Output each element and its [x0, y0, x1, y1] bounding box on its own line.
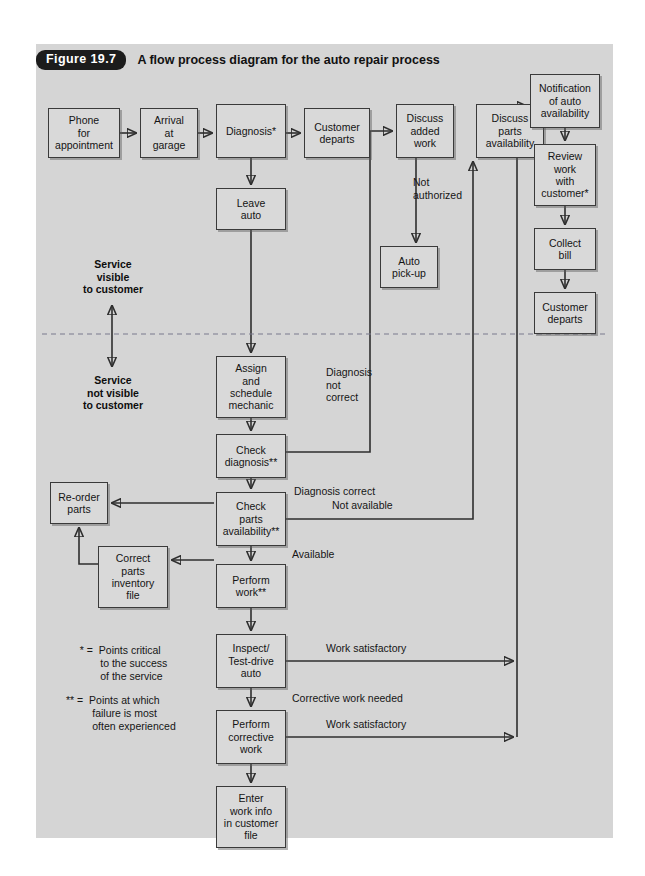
node-review-work-with-customer[interactable]: Review work with customer* — [534, 144, 596, 206]
node-phone-for-appointment[interactable]: Phone for appointment — [48, 108, 120, 158]
node-assign-and-schedule-mechanic[interactable]: Assign and schedule mechanic — [216, 356, 286, 418]
node-collect-bill[interactable]: Collect bill — [534, 228, 596, 270]
footnote-points-failure: ** = Points at which failure is most oft… — [66, 694, 176, 734]
node-perform-corrective-work[interactable]: Perform corrective work — [216, 710, 286, 764]
node-diagnosis[interactable]: Diagnosis* — [216, 104, 286, 158]
zone-label-service-visible: Service visible to customer — [68, 258, 158, 296]
node-auto-pick-up[interactable]: Auto pick-up — [380, 246, 438, 288]
node-customer-departs-final[interactable]: Customer departs — [534, 292, 596, 334]
node-check-diagnosis[interactable]: Check diagnosis** — [216, 434, 286, 478]
node-customer-departs[interactable]: Customer departs — [304, 108, 370, 158]
zone-label-service-not-visible: Service not visible to customer — [68, 374, 158, 412]
node-discuss-added-work[interactable]: Discuss added work — [396, 104, 454, 158]
edge-label-diagnosis-correct: Diagnosis correct — [294, 485, 375, 498]
edge-label-available: Available — [292, 548, 334, 561]
node-leave-auto[interactable]: Leave auto — [216, 188, 286, 230]
edge-label-diagnosis-not-correct: Diagnosis not correct — [326, 366, 372, 404]
flow-diagram: Phone for appointment Arrival at garage … — [36, 44, 613, 838]
node-inspect-test-drive-auto[interactable]: Inspect/ Test-drive auto — [216, 634, 286, 688]
figure-page: Figure 19.7 A flow process diagram for t… — [0, 0, 645, 876]
figure-panel: Figure 19.7 A flow process diagram for t… — [36, 44, 613, 838]
node-perform-work[interactable]: Perform work** — [216, 564, 286, 608]
node-enter-work-info[interactable]: Enter work info in customer file — [216, 786, 286, 848]
footnote-points-critical: * = Points critical to the success of th… — [74, 644, 167, 684]
edge-label-corrective-work-needed: Corrective work needed — [292, 692, 403, 705]
edge-label-not-available: Not available — [332, 499, 393, 512]
edge-label-not-authorized: Not authorized — [413, 176, 462, 201]
edge-label-work-satisfactory-2: Work satisfactory — [326, 718, 406, 731]
node-notification-of-auto-availability[interactable]: Notification of auto availability — [530, 74, 600, 128]
edge-label-work-satisfactory-1: Work satisfactory — [326, 642, 406, 655]
node-arrival-at-garage[interactable]: Arrival at garage — [140, 108, 198, 158]
node-correct-parts-inventory-file[interactable]: Correct parts inventory file — [98, 546, 168, 608]
node-check-parts-availability[interactable]: Check parts availability** — [216, 492, 286, 546]
node-re-order-parts[interactable]: Re-order parts — [50, 482, 108, 524]
